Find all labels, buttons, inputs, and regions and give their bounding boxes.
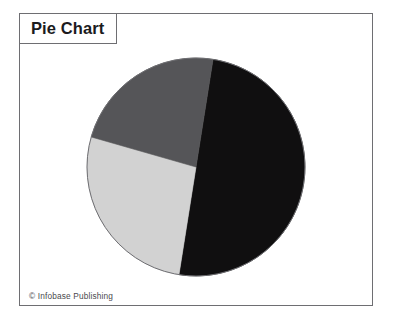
chart-plot-area [19, 13, 373, 306]
chart-title-box: Pie Chart [19, 13, 117, 44]
pie-chart-svg [19, 13, 373, 306]
copyright-credit: © Infobase Publishing [29, 292, 113, 300]
page-title: Pie Chart [31, 20, 104, 37]
pie-slices-group [87, 58, 305, 276]
pie-chart-figure: Pie Chart © Infobase Publishing [0, 0, 393, 329]
